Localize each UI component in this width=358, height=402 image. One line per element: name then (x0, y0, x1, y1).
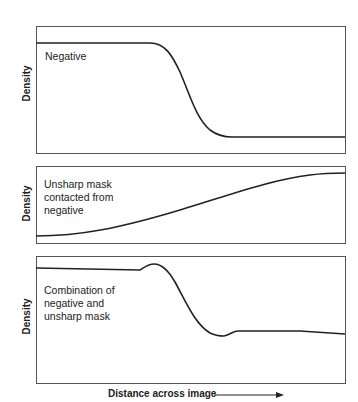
panel-2-label-line-2: contacted from (44, 191, 113, 204)
x-axis-label: Distance across image (108, 388, 216, 399)
panel-2-label-line-1: Unsharp mask (44, 178, 113, 191)
panel-1-frame (37, 27, 346, 154)
panel-2-label: Unsharp mask contacted from negative (44, 178, 113, 217)
panel-2-ylabel: Density (21, 174, 32, 234)
panel-2-label-line-3: negative (44, 204, 113, 217)
panel-3-label: Combination of negative and unsharp mask (44, 284, 115, 323)
panel-3-ylabel: Density (21, 287, 32, 347)
panel-1-label: Negative (45, 50, 86, 63)
panel-3-label-line-1: Combination of (44, 284, 115, 297)
panel-3-label-line-3: unsharp mask (44, 310, 115, 323)
arrow-right-icon (276, 392, 284, 398)
panel-3-label-line-2: negative and (44, 297, 115, 310)
panel-1-ylabel: Density (21, 54, 32, 114)
